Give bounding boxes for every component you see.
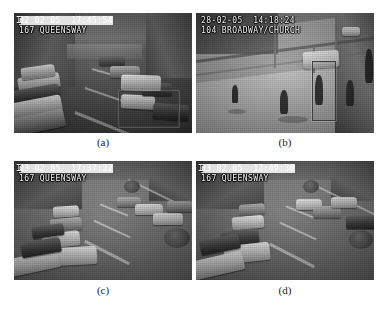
- panel-b[interactable]: 28-02-05 14:18:24 104 BROADWAY/CHURCH: [196, 13, 374, 133]
- pedestrian: [346, 80, 354, 106]
- osd-datetime: 03 02 05 17:49:30: [201, 164, 295, 173]
- panel-d[interactable]: ꕯ 03 02 05 17:49:30 167 QUEENSWAY: [196, 161, 374, 280]
- osd-location: 104 BROADWAY/CHURCH: [201, 26, 300, 35]
- figure-row-top: ꕯ 02 02 05 17:45:54 167 QUEENSWAY: [14, 13, 374, 133]
- pedestrian: [365, 49, 373, 83]
- vehicle-distant: [342, 27, 360, 36]
- osd-overlay-d: 03 02 05 17:49:30 167 QUEENSWAY: [201, 164, 295, 183]
- vehicle: [99, 56, 125, 66]
- osd-overlay-a: 02 02 05 17:45:54 167 QUEENSWAY: [19, 16, 113, 35]
- figure-container: ꕯ 02 02 05 17:45:54 167 QUEENSWAY: [0, 0, 389, 312]
- tracked-vehicle: [121, 75, 162, 92]
- vehicle: [313, 206, 341, 218]
- osd-location: 167 QUEENSWAY: [19, 26, 87, 35]
- vehicle-detection-box[interactable]: [119, 91, 179, 127]
- osd-datetime: 02 02 05 17:45:54: [19, 16, 113, 25]
- panel-c[interactable]: ꕯ 03 02 05 17:37:22 167 QUEENSWAY: [14, 161, 192, 280]
- vehicle: [153, 213, 183, 225]
- pedestrian-shadow: [228, 109, 246, 114]
- vehicle: [346, 216, 374, 229]
- caption-d: (d): [255, 284, 315, 296]
- vehicle: [238, 203, 265, 216]
- roadside-bush: [349, 230, 373, 249]
- osd-datetime: 28-02-05 14:18:24: [201, 16, 295, 25]
- camera-channel-icon: ꕯ: [198, 164, 205, 173]
- caption-c: (c): [73, 284, 133, 296]
- tree-line-right: [149, 161, 192, 201]
- panel-a[interactable]: ꕯ 02 02 05 17:45:54 167 QUEENSWAY: [14, 13, 192, 133]
- osd-location: 167 QUEENSWAY: [201, 174, 269, 183]
- pedestrian: [280, 90, 288, 114]
- osd-overlay-c: 03 02 05 17:37:22 167 QUEENSWAY: [19, 164, 113, 183]
- building-right: [146, 13, 192, 78]
- caption-a: (a): [73, 136, 133, 148]
- osd-location: 167 QUEENSWAY: [19, 174, 87, 183]
- camera-channel-icon: ꕯ: [16, 164, 23, 173]
- pedestrian-detection-box[interactable]: [312, 61, 336, 121]
- vehicle: [167, 201, 192, 212]
- pedestrian: [232, 85, 238, 103]
- vehicle: [331, 197, 357, 208]
- camera-channel-icon: ꕯ: [16, 16, 23, 25]
- roadside-bush: [164, 228, 190, 248]
- vehicle: [231, 214, 264, 230]
- osd-overlay-b: 28-02-05 14:18:24 104 BROADWAY/CHURCH: [201, 16, 300, 35]
- figure-row-bottom: ꕯ 03 02 05 17:37:22 167 QUEENSWAY: [14, 161, 374, 280]
- roadside-bush: [303, 180, 319, 193]
- caption-b: (b): [255, 136, 315, 148]
- osd-datetime: 03 02 05 17:37:22: [19, 164, 113, 173]
